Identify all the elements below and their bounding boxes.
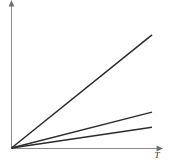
line-chart-figure: T <box>0 0 169 160</box>
x-axis-label: T <box>154 150 160 160</box>
y-axis-arrow-icon <box>9 0 15 6</box>
plot-area: T <box>0 0 169 160</box>
